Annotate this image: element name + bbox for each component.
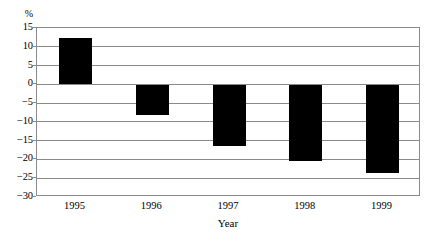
- bar-1995: [59, 38, 92, 84]
- x-axis-tick-label: 1999: [347, 200, 417, 212]
- bar-1996: [136, 84, 169, 115]
- bar-1998: [289, 84, 322, 161]
- plot-area: [36, 27, 420, 196]
- x-axis-tick-label: 1997: [193, 200, 263, 212]
- y-axis-tick-label: −5: [1, 97, 33, 107]
- bar-1999: [366, 84, 399, 173]
- y-axis-tick-mark: [32, 196, 36, 197]
- y-axis-labels: 151050−5−10−15−20−25−30: [0, 0, 33, 243]
- gridline: [37, 159, 419, 160]
- y-axis-tick-label: 0: [1, 78, 33, 88]
- y-axis-tick-label: 10: [1, 41, 33, 51]
- x-axis-title: Year: [36, 217, 420, 229]
- y-axis-tick-label: −20: [1, 153, 33, 163]
- bar-1997: [213, 84, 246, 145]
- gridline: [37, 178, 419, 179]
- y-axis-tick-label: 5: [1, 60, 33, 70]
- y-axis-tick-label: −30: [1, 191, 33, 201]
- zero-baseline: [37, 84, 419, 85]
- bar-chart: % 151050−5−10−15−20−25−30 19951996199719…: [0, 0, 430, 243]
- y-axis-tick-label: −25: [1, 172, 33, 182]
- y-axis-tick-label: 15: [1, 22, 33, 32]
- gridline: [37, 46, 419, 47]
- y-axis-tick-label: −15: [1, 135, 33, 145]
- x-axis-tick-label: 1996: [116, 200, 186, 212]
- x-axis-tick-label: 1995: [39, 200, 109, 212]
- x-axis-tick-label: 1998: [270, 200, 340, 212]
- y-axis-tick-label: −10: [1, 116, 33, 126]
- gridline: [37, 65, 419, 66]
